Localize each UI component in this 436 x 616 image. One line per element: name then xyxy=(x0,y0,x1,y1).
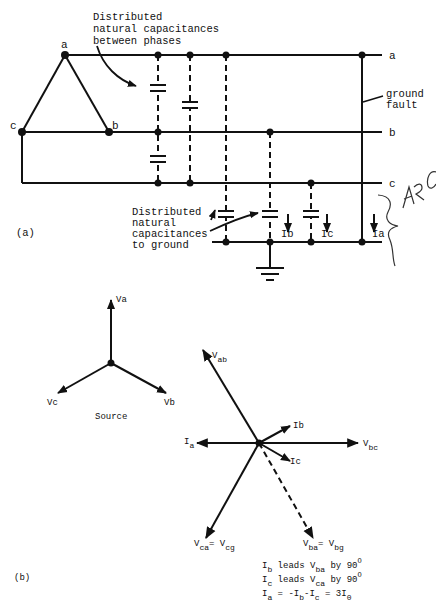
fault-phasor-labels: Vab Vbc Ia Ib Ic Vca= Vcg Vba= Vbg xyxy=(184,351,378,552)
capacitor-icon xyxy=(150,155,166,163)
ic-phasor-label: Ic xyxy=(290,457,301,467)
ia-phasor-label: Ia xyxy=(184,437,194,450)
annotation-between-phases-line1: Distributed xyxy=(93,11,162,23)
capacitor-icon xyxy=(303,210,319,218)
vba-phasor xyxy=(259,443,313,538)
delta-node-b-label: b xyxy=(112,120,119,132)
vbc-label: Vbc xyxy=(363,439,378,452)
vca-phasor xyxy=(206,443,259,538)
note-ib-leads: Ib leads Vba by 90O xyxy=(262,557,362,574)
vab-phasor xyxy=(203,350,259,443)
circuit-diagram xyxy=(22,55,383,280)
va-label: Va xyxy=(116,295,127,305)
current-ic-label: Ic xyxy=(321,228,334,240)
current-ia-label: Ia xyxy=(372,228,385,240)
annotation-between-phases-line2: natural capacitances xyxy=(93,23,219,35)
ground-fault-leader xyxy=(363,96,383,102)
panel-b-label: (b) xyxy=(14,573,30,583)
handwritten-arc-brace xyxy=(378,172,436,266)
note-ia-equation: Ia = -Ib-Ic = 3I0 xyxy=(262,589,352,602)
ground-symbol-icon xyxy=(256,268,284,280)
vab-label: Vab xyxy=(212,351,227,364)
source-phasors xyxy=(58,300,166,393)
ground-fault-label-line2: fault xyxy=(386,99,418,111)
delta-source xyxy=(22,55,109,183)
annotation-between-phases-line3: between phases xyxy=(93,35,181,47)
line-a-label-right: a xyxy=(389,50,396,62)
line-b-label-right: b xyxy=(389,127,396,139)
vba-label: Vba= Vbg xyxy=(303,539,344,552)
figure-canvas: a c b a b c Distributed natural capacita… xyxy=(0,0,436,616)
note-ic-leads: Ic leads Vca by 90O xyxy=(262,571,362,588)
current-ib-label: Ib xyxy=(281,228,294,240)
vb-label: Vb xyxy=(164,398,175,408)
annotation-to-ground-line4: to ground xyxy=(132,239,189,251)
line-c-label-right: c xyxy=(389,178,396,190)
fault-phasors xyxy=(197,350,358,538)
phasor-notes: Ib leads Vba by 90O Ic leads Vca by 90O … xyxy=(262,557,362,602)
capacitor-icons xyxy=(150,84,319,218)
annotation-leaders xyxy=(97,46,258,231)
capacitor-icon xyxy=(218,210,234,218)
panel-a-label: (a) xyxy=(16,227,35,239)
ib-phasor xyxy=(259,426,290,443)
capacitor-icon xyxy=(150,84,166,92)
ib-phasor-label: Ib xyxy=(293,421,304,431)
vc-label: Vc xyxy=(47,398,58,408)
delta-node-a-label: a xyxy=(61,39,68,51)
source-title: Source xyxy=(95,412,127,422)
capacitor-icon xyxy=(262,210,278,218)
delta-node-c-label: c xyxy=(10,120,17,132)
vca-label: Vca= Vcg xyxy=(194,539,235,552)
capacitor-icon xyxy=(182,101,198,109)
